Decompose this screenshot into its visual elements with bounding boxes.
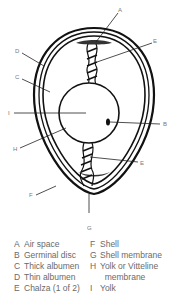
legend-text: Air space: [24, 239, 59, 250]
callout-label-g: G: [87, 225, 92, 231]
legend-text: Thin albumen: [24, 272, 76, 283]
legend-text: Chalza (1 of 2): [24, 283, 80, 294]
legend-key: A: [14, 239, 24, 250]
legend-key: I: [90, 283, 100, 294]
legend-row: CThick albumen HYolk or Vitteline: [14, 261, 172, 272]
legend-key: E: [14, 283, 24, 294]
legend-text: Thick albumen: [24, 261, 79, 272]
legend-key: F: [90, 239, 100, 250]
legend-key: G: [90, 250, 100, 261]
callout-label-a: A: [118, 7, 122, 13]
legend-row: EChalza (1 of 2) IYolk: [14, 283, 172, 294]
legend-key: B: [14, 250, 24, 261]
legend-key: H: [90, 261, 100, 272]
legend-text: Germinal disc: [24, 250, 76, 261]
callout-label-d: D: [15, 48, 19, 54]
legend-text: Shell: [100, 239, 119, 250]
legend-key: C: [14, 261, 24, 272]
legend-text: membrane: [100, 272, 145, 283]
chalaza-lower: [80, 143, 93, 186]
legend-text: Yolk: [100, 283, 116, 294]
legend-text: Yolk or Vitteline: [100, 261, 158, 272]
chalaza-upper: [87, 44, 97, 84]
callout-label-i: I: [8, 110, 10, 116]
callout-label-f: F: [29, 192, 33, 198]
callout-label-e-upper: E: [153, 38, 157, 44]
legend-row: AAir space FShell: [14, 239, 172, 250]
legend: AAir space FShell BGerminal disc GShell …: [14, 239, 172, 294]
callout-label-c: C: [15, 74, 19, 80]
air-space: [76, 40, 112, 45]
legend-row: DThin albumen membrane: [14, 272, 172, 283]
legend-key: [90, 272, 100, 283]
callout-label-h: H: [13, 146, 17, 152]
callout-label-e-lower: E: [140, 160, 144, 166]
callout-label-b: B: [163, 121, 167, 127]
germinal-disc: [106, 119, 110, 126]
legend-text: Shell membrane: [100, 250, 162, 261]
egg-anatomy-diagram: [0, 0, 172, 230]
legend-key: D: [14, 272, 24, 283]
legend-row: BGerminal disc GShell membrane: [14, 250, 172, 261]
